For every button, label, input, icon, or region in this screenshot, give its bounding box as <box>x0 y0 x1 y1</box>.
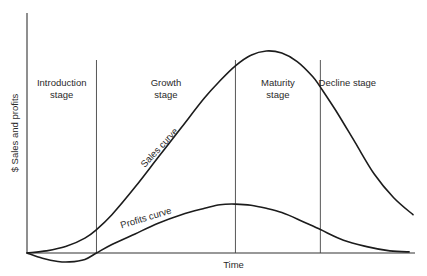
stage-label-2: Growthstage <box>151 77 182 100</box>
stage-label-3: Maturitystage <box>261 77 295 100</box>
stage-label-4: Decline stage <box>319 77 377 88</box>
profits-curve-annotation: Profits curve <box>119 205 173 231</box>
y-axis-label: $ Sales and profits <box>9 93 20 172</box>
sales-curve-annotation: Sales curve <box>138 126 180 170</box>
product-life-cycle-chart: IntroductionstageGrowthstageMaturitystag… <box>0 0 427 276</box>
stage-label-1: Introductionstage <box>37 77 87 100</box>
x-axis-label: Time <box>223 259 244 270</box>
